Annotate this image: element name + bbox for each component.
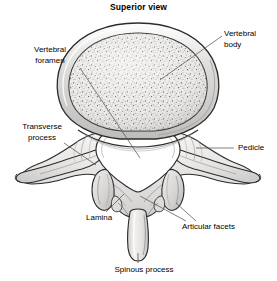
label-vertebral-foramen: Vertebral foramen [12,45,88,66]
label-pedicle: Pedicle [238,143,276,154]
articular-facet-right [162,169,184,210]
label-transverse-process: Transverse process [4,122,80,143]
vertebral-body-group [57,23,219,151]
label-articular-facets: Articular facets [182,222,254,233]
anatomy-figure-superior-view: Superior view [0,0,277,281]
leader-articular-facet-right [176,203,196,221]
label-vertebral-body: Vertebral body [224,29,276,50]
vertebral-arch-group [15,126,260,261]
label-lamina: Lamina [86,213,126,224]
label-spinous-process: Spinous process [88,265,200,276]
articular-facet-left [92,169,114,210]
